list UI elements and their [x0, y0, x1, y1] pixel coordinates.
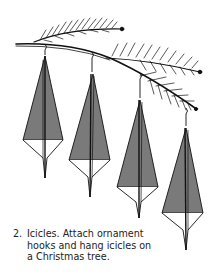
hook-icon — [186, 108, 188, 126]
caption-text: Icicles. Attach ornament hooks and hang … — [27, 228, 217, 263]
caption-line-2: hooks and hang icicles on — [27, 240, 217, 252]
icicle-ornament-3 — [117, 73, 158, 218]
hook-icon — [92, 52, 94, 72]
icicle-ornament-2 — [69, 52, 110, 197]
caption-line-1: Icicles. Attach ornament — [27, 228, 217, 240]
hook-icon — [45, 44, 47, 55]
hook-icon — [140, 73, 142, 98]
caption-step-number: 2. — [13, 228, 22, 240]
caption-line-3: a Christmas tree. — [27, 251, 217, 263]
icicle-ornament-1 — [23, 44, 63, 178]
